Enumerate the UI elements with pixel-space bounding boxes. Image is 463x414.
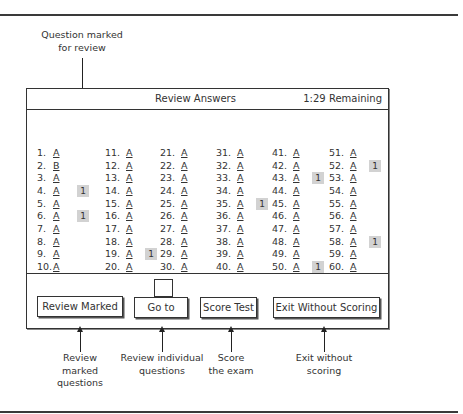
answer-item[interactable]: 18.A <box>105 236 133 248</box>
answer-item[interactable]: 5.A <box>37 198 60 210</box>
selected-answer[interactable]: A <box>126 248 133 259</box>
selected-answer[interactable]: A <box>53 248 60 259</box>
answer-item[interactable]: 51.A <box>329 147 357 159</box>
answer-item[interactable]: 20.A <box>105 261 133 273</box>
answer-item[interactable]: 19.A <box>105 248 133 260</box>
selected-answer[interactable]: B <box>53 160 60 171</box>
answer-item[interactable]: 9.A <box>37 248 60 260</box>
selected-answer[interactable]: A <box>350 185 357 196</box>
answer-item[interactable]: 52.A <box>329 160 357 172</box>
selected-answer[interactable]: A <box>350 223 357 234</box>
answer-item[interactable]: 56.A <box>329 210 357 222</box>
selected-answer[interactable]: A <box>126 236 133 247</box>
answer-item[interactable]: 46.A <box>272 210 300 222</box>
selected-answer[interactable]: A <box>237 210 244 221</box>
selected-answer[interactable]: A <box>181 185 188 196</box>
selected-answer[interactable]: A <box>53 172 60 183</box>
answer-item[interactable]: 26.A <box>160 210 188 222</box>
answer-item[interactable]: 45.A <box>272 198 300 210</box>
answer-item[interactable]: 40.A <box>216 261 244 273</box>
answer-item[interactable]: 22.A <box>160 160 188 172</box>
selected-answer[interactable]: A <box>237 185 244 196</box>
selected-answer[interactable]: A <box>293 185 300 196</box>
selected-answer[interactable]: A <box>126 198 133 209</box>
answer-item[interactable]: 28.A <box>160 236 188 248</box>
selected-answer[interactable]: A <box>350 147 357 158</box>
selected-answer[interactable]: A <box>53 236 60 247</box>
answer-item[interactable]: 14.A <box>105 185 133 197</box>
selected-answer[interactable]: A <box>181 261 188 272</box>
answer-item[interactable]: 2.B <box>37 160 60 172</box>
selected-answer[interactable]: A <box>181 147 188 158</box>
selected-answer[interactable]: A <box>53 185 60 196</box>
selected-answer[interactable]: A <box>237 160 244 171</box>
answer-item[interactable]: 53.A <box>329 172 357 184</box>
answer-item[interactable]: 36.A <box>216 210 244 222</box>
selected-answer[interactable]: A <box>181 248 188 259</box>
answer-item[interactable]: 47.A <box>272 223 300 235</box>
selected-answer[interactable]: A <box>181 172 188 183</box>
answer-item[interactable]: 60.A <box>329 261 357 273</box>
goto-question-input[interactable] <box>154 279 173 297</box>
selected-answer[interactable]: A <box>126 185 133 196</box>
answer-item[interactable]: 24.A <box>160 185 188 197</box>
selected-answer[interactable]: A <box>350 172 357 183</box>
answer-item[interactable]: 17.A <box>105 223 133 235</box>
answer-item[interactable]: 59.A <box>329 248 357 260</box>
selected-answer[interactable]: A <box>293 210 300 221</box>
selected-answer[interactable]: A <box>181 160 188 171</box>
answer-item[interactable]: 15.A <box>105 198 133 210</box>
answer-item[interactable]: 34.A <box>216 185 244 197</box>
selected-answer[interactable]: A <box>293 198 300 209</box>
review-marked-button[interactable]: Review Marked <box>37 296 123 317</box>
selected-answer[interactable]: A <box>293 147 300 158</box>
selected-answer[interactable]: A <box>293 236 300 247</box>
answer-item[interactable]: 35.A <box>216 198 244 210</box>
selected-answer[interactable]: A <box>126 223 133 234</box>
selected-answer[interactable]: A <box>293 160 300 171</box>
answer-item[interactable]: 23.A <box>160 172 188 184</box>
selected-answer[interactable]: A <box>237 198 244 209</box>
answer-item[interactable]: 4.A <box>37 185 60 197</box>
answer-item[interactable]: 43.A <box>272 172 300 184</box>
answer-item[interactable]: 30.A <box>160 261 188 273</box>
selected-answer[interactable]: A <box>350 210 357 221</box>
answer-item[interactable]: 38.A <box>216 236 244 248</box>
exit-without-scoring-button[interactable]: Exit Without Scoring <box>273 297 380 318</box>
selected-answer[interactable]: A <box>293 261 300 272</box>
selected-answer[interactable]: A <box>181 236 188 247</box>
answer-item[interactable]: 50.A <box>272 261 300 273</box>
answer-item[interactable]: 54.A <box>329 185 357 197</box>
answer-item[interactable]: 8.A <box>37 236 60 248</box>
answer-item[interactable]: 44.A <box>272 185 300 197</box>
selected-answer[interactable]: A <box>53 147 60 158</box>
selected-answer[interactable]: A <box>126 210 133 221</box>
answer-item[interactable]: 49.A <box>272 248 300 260</box>
answer-item[interactable]: 42.A <box>272 160 300 172</box>
selected-answer[interactable]: A <box>293 223 300 234</box>
selected-answer[interactable]: A <box>181 210 188 221</box>
selected-answer[interactable]: A <box>53 198 60 209</box>
answer-item[interactable]: 6.A <box>37 210 60 222</box>
answer-item[interactable]: 32.A <box>216 160 244 172</box>
selected-answer[interactable]: A <box>126 172 133 183</box>
answer-item[interactable]: 10.A <box>37 261 60 273</box>
selected-answer[interactable]: A <box>126 160 133 171</box>
selected-answer[interactable]: A <box>237 261 244 272</box>
answer-item[interactable]: 33.A <box>216 172 244 184</box>
go-to-button[interactable]: Go to <box>134 297 188 318</box>
selected-answer[interactable]: A <box>181 223 188 234</box>
selected-answer[interactable]: A <box>350 248 357 259</box>
answer-item[interactable]: 41.A <box>272 147 300 159</box>
answer-item[interactable]: 27.A <box>160 223 188 235</box>
answer-item[interactable]: 37.A <box>216 223 244 235</box>
selected-answer[interactable]: A <box>237 172 244 183</box>
selected-answer[interactable]: A <box>350 261 357 272</box>
selected-answer[interactable]: A <box>237 147 244 158</box>
selected-answer[interactable]: A <box>53 223 60 234</box>
answer-item[interactable]: 48.A <box>272 236 300 248</box>
answer-item[interactable]: 21.A <box>160 147 188 159</box>
selected-answer[interactable]: A <box>53 210 60 221</box>
answer-item[interactable]: 25.A <box>160 198 188 210</box>
answer-item[interactable]: 29.A <box>160 248 188 260</box>
